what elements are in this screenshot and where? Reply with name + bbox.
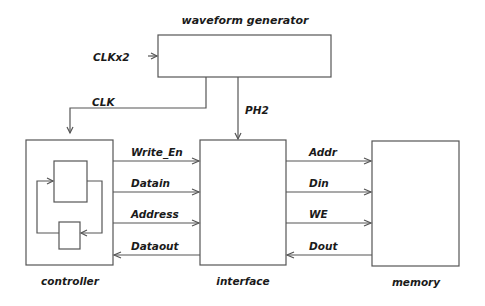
interface-box <box>200 140 286 265</box>
controller-block: controller <box>26 140 113 287</box>
interface-label: interface <box>216 275 269 287</box>
we-label: WE <box>309 208 329 220</box>
memory-box <box>372 141 459 266</box>
clkx2-label: CLKx2 <box>93 51 130 63</box>
write-en-signal: Write_En <box>113 146 199 164</box>
waveform-generator-box <box>158 35 331 77</box>
addr-label: Addr <box>308 146 338 158</box>
block-diagram: waveform generator CLKx2 CLK PH2 control… <box>0 0 485 306</box>
dataout-signal: Dataout <box>114 240 200 258</box>
waveform-generator-label: waveform generator <box>182 14 310 27</box>
controller-label: controller <box>41 275 100 287</box>
we-signal: WE <box>286 208 371 226</box>
clk-signal: CLK <box>67 77 206 133</box>
address-label: Address <box>130 208 179 220</box>
dout-label: Dout <box>309 240 338 252</box>
interface-block: interface <box>200 140 286 287</box>
din-label: Din <box>309 177 329 189</box>
waveform-generator-block: waveform generator <box>158 14 331 77</box>
datain-label: Datain <box>131 177 170 189</box>
ph2-label: PH2 <box>245 104 269 116</box>
addr-signal: Addr <box>286 146 371 164</box>
memory-block: memory <box>372 141 459 288</box>
controller-register-box <box>59 222 80 249</box>
write-en-label: Write_En <box>131 146 183 159</box>
controller-state-box <box>54 161 87 202</box>
address-signal: Address <box>113 208 199 226</box>
memory-label: memory <box>392 276 441 288</box>
dataout-label: Dataout <box>131 240 180 252</box>
dout-signal: Dout <box>287 240 372 258</box>
clkx2-signal: CLKx2 <box>93 51 157 63</box>
din-signal: Din <box>286 177 371 195</box>
clk-wire <box>70 77 206 133</box>
ph2-signal: PH2 <box>235 77 269 139</box>
datain-signal: Datain <box>113 177 199 195</box>
clk-label: CLK <box>92 96 115 108</box>
